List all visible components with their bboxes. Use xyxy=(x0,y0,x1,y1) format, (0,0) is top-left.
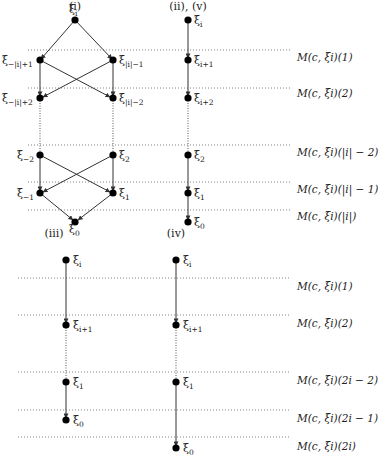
node-label: ξ0 xyxy=(69,223,80,238)
node-xi-1 xyxy=(62,378,69,385)
node-xi-0 xyxy=(184,218,191,225)
panel-iv-title: (iv) xyxy=(167,227,185,240)
level-label: M(c, ξi)(2) xyxy=(296,87,353,99)
panel-iv: (iv) ξi ξi+1 ξ1 ξ0 M(c, ξi)(1) M(c, ξi)(… xyxy=(167,227,378,457)
level-label: M(c, ξi)(2) xyxy=(296,317,353,329)
node-xi-i-plus-1 xyxy=(184,56,191,63)
panel-iii-title: (iii) xyxy=(44,227,63,240)
level-label: M(c, ξi)(1) xyxy=(296,280,353,292)
panel-iii: (iii) ξi ξi+1 ξ1 ξ0 xyxy=(44,227,92,429)
level-label: M(c, ξi)(|i|) xyxy=(296,210,356,224)
edge xyxy=(41,20,75,59)
edge xyxy=(75,20,112,59)
node-xi-1 xyxy=(184,189,191,196)
node-label: ξ−|i|+2 xyxy=(2,92,33,107)
node-label: ξ|i|−2 xyxy=(119,92,144,107)
node-xi-abs-i-minus-2 xyxy=(109,94,116,101)
node-xi-0 xyxy=(62,416,69,423)
node-label: ξ2 xyxy=(194,149,205,164)
level-label: M(c, ξi)(|i| − 2) xyxy=(296,146,378,160)
edge xyxy=(40,60,110,97)
node-label: ξi xyxy=(73,254,82,269)
edge xyxy=(43,60,113,97)
edge xyxy=(40,155,110,192)
edge xyxy=(78,193,113,220)
node-label: ξ0 xyxy=(73,414,84,429)
edge xyxy=(43,155,113,192)
node-xi-2 xyxy=(184,151,191,158)
node-label: ξ2 xyxy=(119,149,130,164)
node-label: ξi+1 xyxy=(73,319,93,334)
diagram-canvas: (i) ξi ξ−|i|+1 ξ|i|−1 ξ−|i|+2 ξ|i|−2 ξ xyxy=(0,0,378,461)
node-xi-i-plus-2 xyxy=(184,94,191,101)
level-label: M(c, ξi)(2i) xyxy=(296,440,356,452)
node-label: ξi xyxy=(183,254,192,269)
panel-ii-v-title: (ii), (v) xyxy=(169,0,206,13)
node-label: ξ1 xyxy=(119,187,130,202)
lower-level-lines xyxy=(18,278,290,437)
node-xi-i-plus-1 xyxy=(172,321,179,328)
node-xi-i xyxy=(62,256,69,263)
node-xi-i xyxy=(184,16,191,23)
node-label: ξi+2 xyxy=(194,92,214,107)
node-label: ξi xyxy=(194,14,203,29)
node-label: ξ1 xyxy=(183,376,194,391)
level-label: M(c, ξi)(2i − 1) xyxy=(296,412,378,424)
node-label: ξ0 xyxy=(194,216,205,231)
node-xi-i-plus-1 xyxy=(62,321,69,328)
node-label: ξ1 xyxy=(73,376,84,391)
node-xi-neg-1 xyxy=(36,189,43,196)
node-label: ξi+1 xyxy=(194,54,214,69)
node-xi-neg-abs-i-plus-1 xyxy=(36,56,43,63)
node-xi-neg-2 xyxy=(36,151,43,158)
panel-i: (i) ξi ξ−|i|+1 ξ|i|−1 ξ−|i|+2 ξ|i|−2 ξ xyxy=(2,0,144,238)
node-xi-i xyxy=(172,256,179,263)
node-label: ξi+1 xyxy=(183,319,203,334)
node-xi-1 xyxy=(172,378,179,385)
panel-ii-v: (ii), (v) ξi ξi+1 ξi+2 ξ2 ξ1 ξ0 M(c, ξi)… xyxy=(169,0,378,231)
level-label: M(c, ξi)(|i| − 1) xyxy=(296,183,378,197)
level-label: M(c, ξi)(1) xyxy=(296,51,353,63)
node-label: ξ1 xyxy=(194,187,205,202)
node-xi-abs-i-minus-1 xyxy=(109,56,116,63)
node-label: ξ0 xyxy=(183,442,194,457)
node-xi-2 xyxy=(109,151,116,158)
edge xyxy=(40,193,73,220)
node-xi-neg-abs-i-plus-2 xyxy=(36,94,43,101)
node-xi-1 xyxy=(109,189,116,196)
node-label: ξ−1 xyxy=(17,187,34,202)
node-label: ξ−|i|+1 xyxy=(2,54,33,69)
node-label: ξ−2 xyxy=(17,149,34,164)
node-xi-0 xyxy=(172,444,179,451)
node-label: ξ|i|−1 xyxy=(119,54,144,69)
level-label: M(c, ξi)(2i − 2) xyxy=(296,374,378,386)
